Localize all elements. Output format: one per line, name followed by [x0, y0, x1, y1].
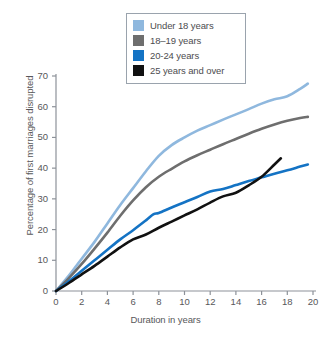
legend-swatch-icon — [133, 35, 144, 46]
x-axis-tick-label: 16 — [252, 297, 272, 307]
legend-item[interactable]: 18–19 years — [133, 33, 239, 48]
legend: Under 18 years18–19 years20-24 years25 y… — [126, 13, 246, 84]
legend-item-label: Under 18 years — [150, 20, 214, 31]
y-axis-tick-label: 50 — [22, 132, 48, 142]
y-axis-tick-label: 40 — [22, 163, 48, 173]
x-axis-tick-label: 10 — [175, 297, 195, 307]
x-axis-tick-label: 12 — [200, 297, 220, 307]
y-axis-tick-label: 30 — [22, 194, 48, 204]
line-chart: Percentage of first marriages disrupted … — [0, 0, 331, 340]
legend-swatch-icon — [133, 65, 144, 76]
y-axis-tick-label: 10 — [22, 255, 48, 265]
series-line — [56, 158, 281, 291]
x-axis-tick-label: 2 — [72, 297, 92, 307]
y-axis-tick-label: 60 — [22, 102, 48, 112]
series-line — [56, 164, 308, 291]
legend-item[interactable]: 25 years and over — [133, 63, 239, 78]
legend-item-label: 18–19 years — [150, 35, 201, 46]
legend-item[interactable]: Under 18 years — [133, 18, 239, 33]
y-axis-tick-label: 0 — [22, 286, 48, 296]
x-axis-tick-label: 14 — [226, 297, 246, 307]
x-axis-tick-label: 0 — [46, 297, 66, 307]
x-axis-tick-label: 18 — [277, 297, 297, 307]
legend-swatch-icon — [133, 20, 144, 31]
legend-item[interactable]: 20-24 years — [133, 48, 239, 63]
y-axis-tick-label: 20 — [22, 225, 48, 235]
legend-item-label: 20-24 years — [150, 50, 199, 61]
x-axis-tick-label: 20 — [303, 297, 323, 307]
x-axis-tick-label: 4 — [97, 297, 117, 307]
legend-item-label: 25 years and over — [150, 65, 224, 76]
legend-swatch-icon — [133, 50, 144, 61]
x-axis-tick-label: 8 — [149, 297, 169, 307]
y-axis-tick-label: 70 — [22, 71, 48, 81]
x-axis-tick-label: 6 — [123, 297, 143, 307]
